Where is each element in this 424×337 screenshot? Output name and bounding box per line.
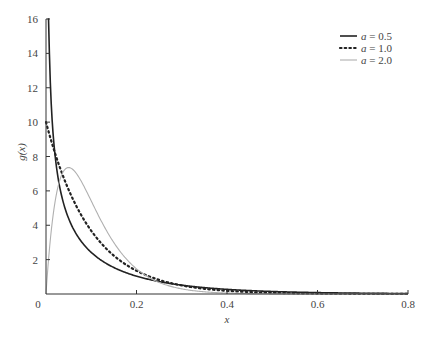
chart: 24681012141600.20.40.60.8 a = 0.5a = 1.0…	[0, 0, 424, 337]
x-axis-label: x	[224, 313, 230, 325]
legend: a = 0.5a = 1.0a = 2.0	[340, 30, 392, 66]
axes: 24681012141600.20.40.60.8	[27, 13, 415, 310]
curve-a-1-0	[46, 122, 408, 294]
x-tick-label: 0.8	[401, 298, 415, 310]
y-tick-label: 6	[33, 185, 39, 197]
curve-a-2-0	[46, 168, 408, 294]
y-axis-label: g(x)	[15, 143, 28, 161]
legend-label: a = 0.5	[361, 30, 392, 42]
y-tick-label: 14	[27, 47, 39, 59]
y-tick-label: 10	[27, 116, 39, 128]
y-tick-label: 16	[27, 13, 39, 25]
y-tick-label: 8	[33, 151, 39, 163]
x-tick-label: 0	[35, 298, 41, 310]
legend-label: a = 1.0	[361, 42, 392, 54]
y-tick-label: 2	[33, 254, 39, 266]
x-tick-label: 0.2	[130, 298, 144, 310]
y-tick-label: 12	[27, 82, 38, 94]
x-tick-label: 0.6	[311, 298, 325, 310]
y-tick-label: 4	[33, 219, 39, 231]
legend-label: a = 2.0	[361, 54, 392, 66]
x-tick-label: 0.4	[220, 298, 234, 310]
